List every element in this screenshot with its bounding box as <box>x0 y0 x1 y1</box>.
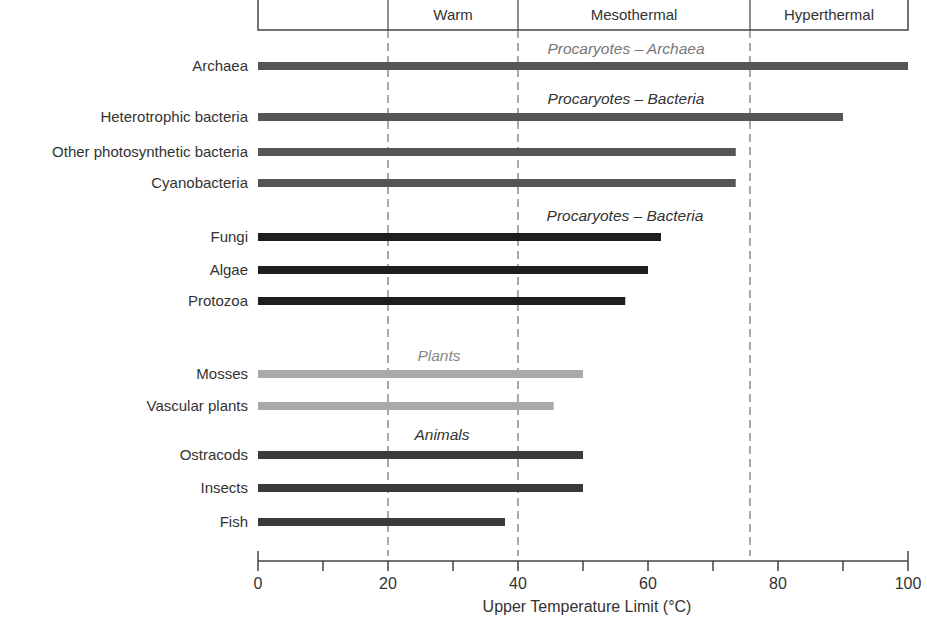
group-labels: Procaryotes – Archaea Procaryotes – Bact… <box>413 40 704 443</box>
x-axis-title: Upper Temperature Limit (°C) <box>483 598 692 615</box>
x-tick-label: 100 <box>895 575 922 592</box>
category-label: Vascular plants <box>147 397 248 414</box>
zone-mesothermal: Mesothermal <box>591 6 678 23</box>
x-axis: 020406080100 Upper Temperature Limit (°C… <box>254 551 922 615</box>
bar-heterotrophic-bacteria <box>258 113 843 121</box>
x-tick-label: 20 <box>379 575 397 592</box>
temperature-limit-chart: Warm Mesothermal Hyperthermal Procaryote… <box>0 0 927 618</box>
bar-insects <box>258 484 583 492</box>
category-label: Cyanobacteria <box>151 174 248 191</box>
bar-other-photosynthetic-bacteria <box>258 148 736 156</box>
group-label-bacteria-2: Procaryotes – Bacteria <box>547 207 704 224</box>
x-tick-label: 80 <box>769 575 787 592</box>
zone-warm: Warm <box>433 6 472 23</box>
category-label: Ostracods <box>180 446 248 463</box>
bar-fungi <box>258 233 661 241</box>
bar-protozoa <box>258 297 625 305</box>
bars <box>258 62 908 526</box>
bar-fish <box>258 518 505 526</box>
bar-archaea <box>258 62 908 70</box>
group-label-plants: Plants <box>417 347 460 364</box>
category-label: Mosses <box>196 365 248 382</box>
category-label: Fungi <box>210 228 248 245</box>
category-label: Heterotrophic bacteria <box>100 108 248 125</box>
bar-ostracods <box>258 451 583 459</box>
category-labels: ArchaeaHeterotrophic bacteriaOther photo… <box>52 57 249 530</box>
category-label: Insects <box>200 479 248 496</box>
bar-vascular-plants <box>258 402 554 410</box>
group-label-archaea: Procaryotes – Archaea <box>547 40 704 57</box>
category-label: Archaea <box>192 57 249 74</box>
category-label: Algae <box>210 261 248 278</box>
x-tick-label: 0 <box>254 575 263 592</box>
category-label: Other photosynthetic bacteria <box>52 143 249 160</box>
category-label: Protozoa <box>188 292 249 309</box>
group-label-animals: Animals <box>413 426 469 443</box>
zone-boundary-lines <box>388 30 750 556</box>
x-tick-label: 60 <box>639 575 657 592</box>
zone-hyperthermal: Hyperthermal <box>784 6 874 23</box>
bar-cyanobacteria <box>258 179 736 187</box>
group-label-bacteria-1: Procaryotes – Bacteria <box>548 90 705 107</box>
bar-algae <box>258 266 648 274</box>
bar-mosses <box>258 370 583 378</box>
category-label: Fish <box>220 513 248 530</box>
x-tick-label: 40 <box>509 575 527 592</box>
zone-header: Warm Mesothermal Hyperthermal <box>258 0 908 30</box>
